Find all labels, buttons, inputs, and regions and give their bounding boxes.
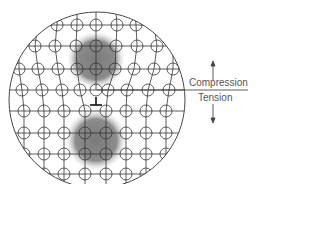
tension-arrow-icon bbox=[211, 104, 215, 123]
tension-zone bbox=[64, 108, 128, 172]
compression-label: Compression bbox=[189, 77, 248, 88]
tension-label: Tension bbox=[198, 92, 232, 103]
dislocation-icon bbox=[90, 97, 102, 105]
